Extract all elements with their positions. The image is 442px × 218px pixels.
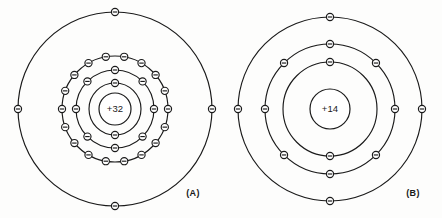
electron (121, 158, 128, 165)
electron (326, 152, 333, 159)
electron (102, 158, 109, 165)
diagram-a: +32(A) (14, 8, 215, 209)
electron (71, 71, 78, 78)
electron (111, 79, 118, 86)
electron (58, 105, 65, 112)
nucleus-charge-label: +14 (322, 103, 339, 114)
electron (208, 105, 215, 112)
electron (326, 197, 333, 204)
electron (111, 202, 118, 209)
electron (111, 8, 118, 15)
electron (139, 78, 146, 85)
panel-caption: (A) (186, 188, 199, 198)
electron (138, 60, 145, 67)
electron (111, 131, 118, 138)
electron (85, 151, 92, 158)
diagram-b: +14(B) (234, 13, 425, 204)
electron (150, 105, 157, 112)
electron (111, 66, 118, 73)
electron (72, 105, 79, 112)
electron (14, 105, 21, 112)
electron (261, 105, 268, 112)
electron (85, 60, 92, 67)
electron (102, 53, 109, 60)
electron (62, 124, 69, 131)
electron (71, 139, 78, 146)
panel-caption: (B) (406, 188, 419, 198)
electron (326, 170, 333, 177)
electron (326, 58, 333, 65)
diagram-layer: +32(A)+14(B) (14, 8, 425, 209)
electron (152, 139, 159, 146)
electron (391, 105, 398, 112)
electron (111, 144, 118, 151)
electron (326, 40, 333, 47)
electron (152, 71, 159, 78)
electron (161, 124, 168, 131)
electron (418, 105, 425, 112)
electron (161, 87, 168, 94)
atom-diagram-canvas: +32(A)+14(B) (0, 0, 442, 218)
electron (280, 151, 287, 158)
electron (121, 53, 128, 60)
electron (139, 133, 146, 140)
electron (138, 151, 145, 158)
electron (62, 87, 69, 94)
electron (280, 59, 287, 66)
nucleus-charge-label: +32 (107, 103, 124, 114)
electron (326, 13, 333, 20)
atomic-shell-figure: +32(A)+14(B) (0, 0, 442, 218)
electron (84, 133, 91, 140)
electron (372, 151, 379, 158)
electron (164, 105, 171, 112)
electron (234, 105, 241, 112)
electron (372, 59, 379, 66)
electron (84, 78, 91, 85)
